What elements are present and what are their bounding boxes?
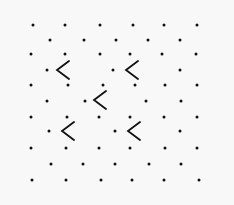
dot (100, 179, 103, 182)
dot (132, 24, 135, 27)
dot (112, 69, 115, 72)
dot (163, 179, 166, 182)
chevron-left-icon (123, 59, 141, 81)
dot (99, 24, 102, 27)
chevron-left-icon (125, 120, 143, 142)
dot (49, 39, 52, 42)
dot (115, 39, 118, 42)
dot (67, 84, 70, 87)
dot (180, 163, 183, 166)
dot (32, 24, 35, 27)
dot (196, 24, 199, 27)
chevron-left-icon (91, 89, 109, 111)
dot (179, 130, 182, 133)
dot (82, 163, 85, 166)
dot (161, 53, 164, 56)
dot (196, 116, 199, 119)
dot (196, 147, 199, 150)
dot (66, 116, 69, 119)
dot (145, 100, 148, 103)
dot (129, 147, 132, 150)
dot (180, 100, 183, 103)
dot (98, 147, 101, 150)
dot (195, 53, 198, 56)
visual-search-stimulus (0, 0, 234, 205)
dot (198, 179, 201, 182)
dot (98, 116, 101, 119)
dot (30, 147, 33, 150)
dot (83, 39, 86, 42)
dot (163, 116, 166, 119)
dot (30, 53, 33, 56)
dot (99, 53, 102, 56)
dot (164, 84, 167, 87)
dot (50, 163, 53, 166)
dot (65, 147, 68, 150)
dot (196, 84, 199, 87)
dot (129, 53, 132, 56)
dot (179, 69, 182, 72)
dot (179, 39, 182, 42)
dot (48, 130, 51, 133)
dot (134, 84, 137, 87)
dot (131, 179, 134, 182)
dot (64, 53, 67, 56)
dot (114, 163, 117, 166)
dot (46, 69, 49, 72)
chevron-left-icon (59, 120, 77, 142)
dot (147, 39, 150, 42)
dot (148, 163, 151, 166)
dot (65, 179, 68, 182)
dot (129, 116, 132, 119)
dot (64, 24, 67, 27)
dot (84, 100, 87, 103)
dot (164, 147, 167, 150)
dot (30, 116, 33, 119)
dot (163, 24, 166, 27)
chevron-left-icon (54, 59, 72, 81)
dot (102, 84, 105, 87)
dot (46, 100, 49, 103)
dot (30, 84, 33, 87)
dot (114, 130, 117, 133)
dot (31, 179, 34, 182)
